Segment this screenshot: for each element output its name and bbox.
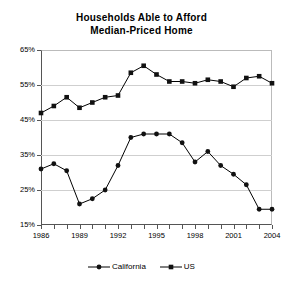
series-line-california <box>41 134 272 209</box>
x-axis-tick <box>54 225 55 229</box>
x-axis-label: 1989 <box>71 231 88 240</box>
x-axis-tick <box>92 225 93 229</box>
data-point <box>244 76 249 81</box>
y-axis-label: 35% <box>5 150 35 159</box>
y-axis-label: 25% <box>5 185 35 194</box>
data-point <box>90 100 95 105</box>
plot-area <box>41 50 272 225</box>
legend-item-us[interactable]: US <box>160 262 195 271</box>
chart-container: Households Able to Afford Median-Priced … <box>0 0 283 284</box>
x-axis-label: 1995 <box>148 231 165 240</box>
data-point <box>77 105 82 110</box>
data-point <box>64 95 69 100</box>
x-axis-tick <box>80 225 81 229</box>
data-point <box>206 77 211 82</box>
data-point <box>193 81 198 86</box>
data-point <box>257 207 262 212</box>
data-point <box>270 207 275 212</box>
y-axis-label: 45% <box>5 115 35 124</box>
y-axis-label: 15% <box>5 220 35 229</box>
data-point <box>116 93 121 98</box>
data-point <box>231 84 236 89</box>
data-point <box>180 140 185 145</box>
series-layer <box>41 50 272 225</box>
chart-legend: CaliforniaUS <box>0 262 283 272</box>
data-point <box>51 161 56 166</box>
data-point <box>154 72 159 77</box>
x-axis-tick <box>272 225 273 229</box>
data-point <box>103 95 108 100</box>
x-axis-tick <box>221 225 222 229</box>
data-point <box>129 70 134 75</box>
x-axis-tick <box>195 225 196 229</box>
data-point <box>205 149 210 154</box>
x-axis-tick <box>234 225 235 229</box>
data-point <box>193 160 198 165</box>
x-axis-tick <box>144 225 145 229</box>
data-point <box>270 81 275 86</box>
data-point <box>141 132 146 137</box>
data-point <box>180 79 185 84</box>
data-point <box>167 132 172 137</box>
data-point <box>244 182 249 187</box>
legend-item-california[interactable]: California <box>88 262 146 271</box>
x-axis-tick <box>131 225 132 229</box>
x-axis-tick <box>41 225 42 229</box>
x-axis-label: 1986 <box>33 231 50 240</box>
legend-marker-circle-icon <box>88 263 110 271</box>
x-axis-tick <box>67 225 68 229</box>
data-point <box>52 104 57 109</box>
x-axis-tick <box>157 225 158 229</box>
data-point <box>167 79 172 84</box>
data-point <box>77 202 82 207</box>
x-axis-label: 2004 <box>264 231 281 240</box>
data-point <box>64 168 69 173</box>
data-point <box>218 79 223 84</box>
chart-title-line-2: Median-Priced Home <box>0 24 283 37</box>
data-point <box>141 63 146 68</box>
data-point <box>90 196 95 201</box>
x-axis-tick <box>105 225 106 229</box>
x-axis-tick <box>118 225 119 229</box>
data-point <box>128 135 133 140</box>
legend-label: California <box>112 263 146 272</box>
chart-title: Households Able to Afford Median-Priced … <box>0 11 283 37</box>
y-axis-label: 55% <box>5 80 35 89</box>
y-axis-label: 65% <box>5 45 35 54</box>
x-axis-label: 2001 <box>225 231 242 240</box>
x-axis-tick <box>259 225 260 229</box>
x-axis-tick <box>169 225 170 229</box>
data-point <box>218 163 223 168</box>
x-axis-tick <box>246 225 247 229</box>
legend-label: US <box>184 263 195 272</box>
data-point <box>116 163 121 168</box>
data-point <box>39 167 44 172</box>
data-point <box>231 172 236 177</box>
x-axis-label: 1992 <box>110 231 127 240</box>
data-point <box>39 111 44 116</box>
chart-title-line-1: Households Able to Afford <box>0 11 283 24</box>
legend-marker-square-icon <box>160 263 182 271</box>
data-point <box>103 188 108 193</box>
x-axis-tick <box>208 225 209 229</box>
data-point <box>154 132 159 137</box>
data-point <box>257 74 262 79</box>
x-axis-tick <box>182 225 183 229</box>
x-axis-label: 1998 <box>187 231 204 240</box>
